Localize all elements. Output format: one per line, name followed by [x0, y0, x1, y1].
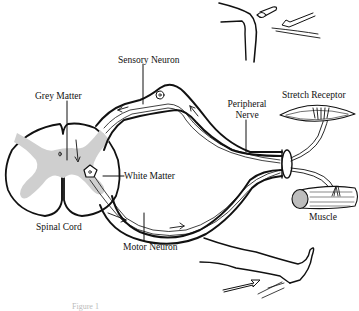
motor-neuron-label: Motor Neuron — [123, 243, 178, 253]
knee-tap-illustration — [219, 3, 320, 62]
kick-arrow-icon — [223, 280, 260, 292]
muscle-label: Muscle — [309, 213, 337, 223]
leg-outline — [221, 21, 246, 60]
figure-caption: Figure 1 — [72, 303, 99, 311]
stretch-receptor-label: Stretch Receptor — [282, 91, 346, 101]
grey-matter-label: Grey Matter — [35, 92, 82, 102]
peripheral-nerve-label-line2: Nerve — [222, 111, 272, 121]
spinal-cord-cross-section — [6, 124, 120, 217]
spinal-cord-label: Spinal Cord — [36, 223, 82, 233]
thigh-outline — [219, 3, 256, 62]
tap-arrow-icon — [282, 13, 315, 27]
arrow-icon — [170, 223, 184, 229]
stretch-receptor-spindle — [280, 105, 355, 121]
sensory-neuron-label: Sensory Neuron — [118, 56, 179, 66]
peripheral-nerve-label-line1: Peripheral — [222, 100, 272, 110]
direction-arrows — [108, 106, 198, 229]
white-matter-label: White Matter — [124, 172, 175, 182]
muscle-illustration — [292, 186, 358, 209]
leg-kick-illustration — [200, 238, 314, 298]
peripheral-nerve-label: Peripheral Nerve — [222, 100, 272, 120]
